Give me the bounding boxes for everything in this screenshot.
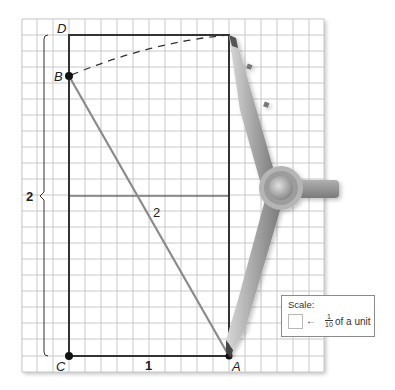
point-c bbox=[65, 352, 73, 360]
scale-text: of a unit bbox=[335, 316, 371, 327]
bottom-side-label: 1 bbox=[145, 358, 152, 373]
fraction-denominator: 10 bbox=[325, 321, 333, 328]
scale-square-icon bbox=[288, 314, 303, 329]
left-side-label: 2 bbox=[26, 189, 33, 204]
scale-fraction: 1 10 bbox=[325, 313, 333, 328]
fraction-numerator: 1 bbox=[325, 313, 333, 321]
scale-title: Scale: bbox=[288, 299, 314, 310]
diagonal-label: 2 bbox=[153, 205, 160, 220]
point-b bbox=[65, 72, 73, 80]
point-label-a: A bbox=[231, 359, 241, 374]
diagram-stage: D B C A 1 2 2 Scale: ← 1 10 of a unit bbox=[0, 0, 395, 390]
point-label-b: B bbox=[54, 69, 63, 84]
point-label-d: D bbox=[57, 21, 66, 36]
scale-legend: Scale: ← 1 10 of a unit bbox=[281, 295, 375, 337]
left-arrow-icon: ← bbox=[306, 315, 316, 326]
point-label-c: C bbox=[56, 359, 66, 374]
